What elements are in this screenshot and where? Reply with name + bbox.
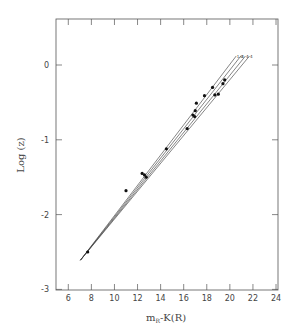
- data-point: [217, 93, 220, 96]
- y-tick-label: -3: [41, 285, 49, 294]
- x-tick-label: 10: [109, 294, 119, 303]
- x-tick-label: 12: [132, 294, 142, 303]
- x-tick-label: 6: [66, 294, 71, 303]
- y-tick-label: -2: [41, 211, 49, 220]
- data-point: [221, 82, 224, 85]
- x-tick-label: 16: [179, 294, 189, 303]
- model-line: [80, 56, 245, 260]
- line-label: 4: [241, 54, 244, 59]
- data-point: [213, 93, 216, 96]
- data-point: [203, 94, 206, 97]
- data-point: [165, 147, 168, 150]
- data-point: [193, 115, 196, 118]
- data-point: [86, 250, 89, 253]
- y-tick-label: -1: [41, 136, 49, 145]
- data-point: [145, 176, 148, 179]
- x-axis-title: mR-K(R): [146, 312, 186, 324]
- model-lines: [80, 56, 249, 260]
- x-tick-label: 22: [248, 294, 258, 303]
- x-tick-label: 8: [89, 294, 94, 303]
- line-labels: 1.0444: [237, 54, 253, 59]
- line-label: 4: [250, 54, 253, 59]
- data-point: [211, 86, 214, 89]
- chart: 6810121416182022240-1-2-3 1.0444 Log (z)…: [0, 0, 295, 326]
- x-tick-label: 24: [271, 294, 281, 303]
- model-line: [80, 56, 240, 260]
- x-tick-label: 20: [225, 294, 235, 303]
- data-point: [124, 189, 127, 192]
- data-point: [223, 78, 226, 81]
- x-tick-label: 18: [202, 294, 212, 303]
- model-line: [80, 56, 249, 260]
- y-tick-label: 0: [44, 61, 49, 70]
- y-axis-title: Log (z): [15, 137, 26, 172]
- data-point: [194, 109, 197, 112]
- data-point: [186, 127, 189, 130]
- x-tick-label: 14: [156, 294, 166, 303]
- line-label: 4: [246, 54, 249, 59]
- data-point: [195, 102, 198, 105]
